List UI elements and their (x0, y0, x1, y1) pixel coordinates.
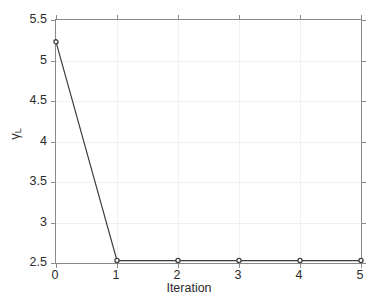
data-point-marker (298, 258, 302, 262)
plot-area (55, 19, 362, 264)
y-tick-label: 2.5 (3, 256, 47, 269)
y-axis-tick-right (361, 61, 366, 62)
y-axis-tick-right (361, 142, 366, 143)
y-tick-label: 3.5 (3, 175, 47, 188)
series-line-gammaL (56, 42, 361, 261)
y-axis-tick-right (361, 223, 366, 224)
data-point-marker (115, 258, 119, 262)
y-tick-label: 5 (3, 54, 47, 67)
x-axis-tick (239, 263, 240, 268)
chart-figure: γL 2.533.544.555.5 012345 Iteration (0, 0, 378, 302)
series-marker-group (54, 40, 363, 263)
x-axis-tick (117, 263, 118, 268)
data-point-marker (359, 258, 363, 262)
y-tick-label: 5.5 (3, 13, 47, 26)
y-tick-label: 4 (3, 135, 47, 148)
data-point-marker (237, 258, 241, 262)
y-axis-tick-right (361, 101, 366, 102)
data-series-layer (56, 20, 361, 263)
data-point-marker (176, 258, 180, 262)
x-axis-tick (300, 263, 301, 268)
x-axis-tick-top (361, 15, 362, 20)
x-axis-tick (56, 263, 57, 268)
y-tick-label: 3 (3, 216, 47, 229)
x-axis-tick (361, 263, 362, 268)
x-axis-tick (178, 263, 179, 268)
x-axis-title: Iteration (0, 281, 378, 295)
data-point-marker (54, 40, 58, 44)
y-axis-title-subscript: L (13, 128, 23, 133)
y-axis-tick-right (361, 182, 366, 183)
y-axis-tick-right (361, 20, 366, 21)
y-tick-label: 4.5 (3, 94, 47, 107)
